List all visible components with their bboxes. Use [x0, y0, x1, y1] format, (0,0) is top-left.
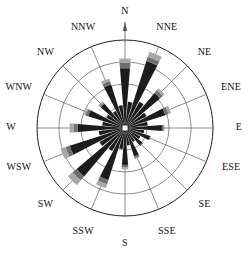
compass-label-n: N	[121, 5, 128, 16]
wind-rose-chart: NNNENEENEEESESESSESSSWSWWSWWWNWNWNNW	[0, 0, 249, 259]
petal-n-mid	[120, 63, 131, 68]
compass-label-ese: ESE	[222, 161, 240, 172]
petal-e-light	[164, 125, 165, 132]
compass-label-se: SE	[198, 198, 210, 209]
wind-rose-figure: NNNENEENEEESESESSESSSWSWWSWWWNWNWNNW	[0, 0, 249, 259]
petal-e-mid	[162, 125, 164, 132]
north-needle-head	[123, 22, 127, 31]
petal-s-light	[122, 167, 129, 169]
petal-s-mid	[122, 165, 129, 168]
center-hub	[122, 125, 128, 131]
rose-hub	[122, 125, 128, 131]
north-needle-icon	[123, 22, 127, 42]
compass-label-ene: ENE	[221, 81, 241, 92]
compass-label-nnw: NNW	[71, 21, 96, 32]
petal-sw-dark	[77, 128, 125, 176]
compass-label-w: W	[6, 121, 16, 132]
compass-label-sse: SSE	[158, 225, 176, 236]
compass-label-ne: NE	[198, 46, 212, 57]
compass-label-e: E	[236, 121, 242, 132]
compass-label-ssw: SSW	[73, 225, 95, 236]
compass-label-nne: NNE	[156, 21, 177, 32]
compass-label-wsw: WSW	[6, 161, 31, 172]
wind-petals	[60, 52, 171, 189]
petal-w-light	[70, 123, 75, 132]
compass-label-s: S	[122, 237, 128, 248]
petal-n-light	[119, 58, 131, 63]
petal-w-mid	[74, 124, 78, 133]
compass-label-nw: NW	[37, 46, 54, 57]
compass-label-sw: SW	[38, 198, 54, 209]
compass-label-wnw: WNW	[6, 81, 33, 92]
petal-ne-dark	[125, 93, 160, 128]
